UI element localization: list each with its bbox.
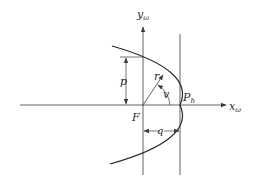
- periapsis-label: Ph: [182, 91, 195, 105]
- r-label: r: [154, 70, 160, 83]
- q-label: q: [157, 125, 163, 136]
- radius-vector: [143, 75, 163, 105]
- focus-label: F: [131, 111, 140, 124]
- parabola-diagram: yω xω p r v F Ph q: [0, 0, 253, 187]
- v-label: v: [163, 88, 170, 101]
- x-axis-label: xω: [229, 100, 241, 114]
- p-label: p: [120, 75, 127, 88]
- y-axis-label: yω: [136, 8, 149, 22]
